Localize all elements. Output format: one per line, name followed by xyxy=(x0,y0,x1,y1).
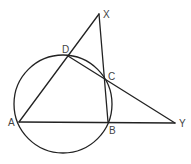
label-d: D xyxy=(62,44,69,55)
circumcircle xyxy=(14,55,112,153)
geometry-diagram: X D C A B Y xyxy=(0,0,191,164)
segment-a-y xyxy=(19,122,175,123)
label-y: Y xyxy=(179,118,186,129)
label-b: B xyxy=(109,125,116,136)
label-x: X xyxy=(103,9,110,20)
label-a: A xyxy=(8,117,15,128)
label-c: C xyxy=(108,71,115,82)
segment-x-b xyxy=(99,14,108,122)
segment-d-y xyxy=(68,56,175,123)
